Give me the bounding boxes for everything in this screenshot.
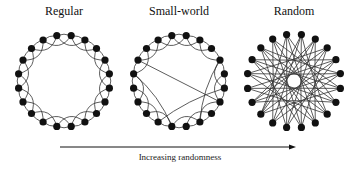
node bbox=[183, 32, 190, 39]
node bbox=[81, 118, 88, 125]
node bbox=[143, 110, 150, 117]
node bbox=[283, 31, 290, 38]
node bbox=[244, 70, 251, 77]
node bbox=[332, 56, 339, 63]
node bbox=[28, 110, 35, 117]
node bbox=[269, 119, 276, 126]
node bbox=[257, 111, 264, 118]
node bbox=[101, 98, 108, 105]
node bbox=[221, 70, 228, 77]
node bbox=[19, 57, 26, 64]
node bbox=[106, 85, 113, 92]
edge bbox=[138, 60, 220, 102]
node bbox=[249, 56, 256, 63]
node bbox=[134, 98, 141, 105]
random-network bbox=[244, 31, 344, 131]
node bbox=[106, 70, 113, 77]
node bbox=[15, 70, 22, 77]
node bbox=[324, 44, 331, 51]
node bbox=[324, 111, 331, 118]
node bbox=[28, 45, 35, 52]
node bbox=[196, 36, 203, 43]
node bbox=[19, 98, 26, 105]
node bbox=[257, 44, 264, 51]
node bbox=[337, 70, 344, 77]
node bbox=[68, 32, 75, 39]
node bbox=[143, 45, 150, 52]
regular-network bbox=[15, 32, 113, 130]
network-diagram bbox=[0, 0, 360, 169]
node bbox=[221, 85, 228, 92]
randomness-arrow bbox=[60, 145, 296, 150]
node bbox=[68, 123, 75, 130]
small-world-network bbox=[130, 32, 228, 130]
node bbox=[332, 99, 339, 106]
node bbox=[298, 31, 305, 38]
node bbox=[53, 123, 60, 130]
node bbox=[168, 123, 175, 130]
node bbox=[53, 32, 60, 39]
node bbox=[81, 36, 88, 43]
node bbox=[40, 36, 47, 43]
node bbox=[93, 110, 100, 117]
node bbox=[244, 85, 251, 92]
node bbox=[40, 118, 47, 125]
node bbox=[155, 118, 162, 125]
node bbox=[155, 36, 162, 43]
node bbox=[130, 70, 137, 77]
node bbox=[249, 99, 256, 106]
axis-label: Increasing randomness bbox=[0, 152, 360, 162]
node bbox=[196, 118, 203, 125]
node bbox=[101, 57, 108, 64]
node bbox=[298, 124, 305, 131]
node bbox=[208, 45, 215, 52]
node bbox=[15, 85, 22, 92]
node bbox=[312, 119, 319, 126]
node bbox=[130, 85, 137, 92]
node bbox=[183, 123, 190, 130]
node bbox=[337, 85, 344, 92]
node bbox=[134, 57, 141, 64]
node bbox=[216, 98, 223, 105]
node bbox=[312, 36, 319, 43]
node bbox=[269, 36, 276, 43]
node bbox=[168, 32, 175, 39]
node bbox=[216, 57, 223, 64]
node bbox=[93, 45, 100, 52]
node bbox=[283, 124, 290, 131]
node bbox=[208, 110, 215, 117]
